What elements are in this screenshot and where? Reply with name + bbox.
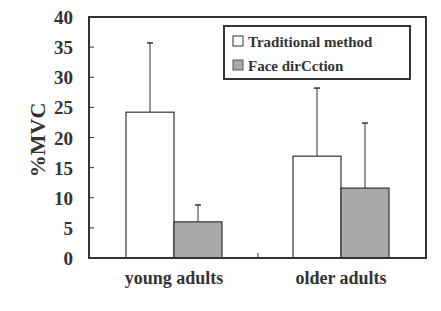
- y-tick-label: 0: [64, 248, 74, 269]
- y-tick-label: 30: [54, 67, 73, 88]
- y-tick-label: 10: [54, 188, 73, 209]
- legend: Traditional method Face dirCction: [224, 26, 410, 79]
- bar: [341, 188, 389, 258]
- legend-swatch-traditional: [233, 36, 243, 46]
- y-tick-label: 20: [54, 128, 73, 149]
- y-tick-label: 25: [54, 97, 73, 118]
- y-axis-title: %MVC: [25, 103, 50, 178]
- legend-label-face: Face dirCction: [248, 58, 344, 74]
- bar: [174, 222, 222, 258]
- category-label-older: older adults: [295, 268, 386, 288]
- y-tick-label: 40: [54, 7, 73, 28]
- legend-swatch-face: [233, 60, 243, 70]
- bar: [293, 156, 341, 258]
- category-label-young: young adults: [125, 268, 224, 288]
- y-tick-label: 15: [54, 158, 73, 179]
- y-tick-label: 5: [64, 218, 74, 239]
- legend-label-traditional: Traditional method: [248, 34, 373, 50]
- bar: [126, 112, 174, 258]
- y-tick-label: 35: [54, 37, 73, 58]
- bar-chart: 0510152025303540 %MVC Traditional method…: [0, 0, 441, 311]
